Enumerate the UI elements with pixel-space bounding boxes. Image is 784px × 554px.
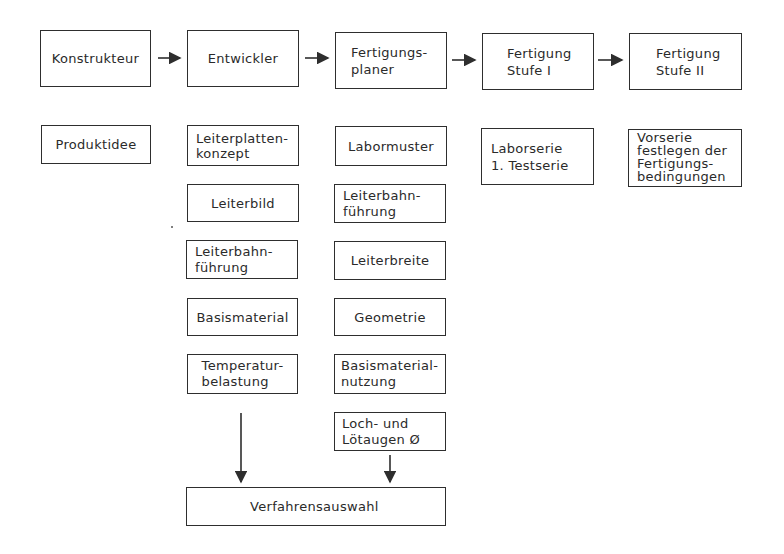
item-label: Basismaterial [196, 309, 288, 326]
item-label: Geometrie [354, 309, 425, 326]
node-fertigung-stufe-2: Fertigung Stufe II [629, 33, 742, 90]
node-fertigung-stufe-1: Fertigung Stufe I [482, 33, 594, 90]
item-loch-und-loetaugen: Loch- und Lötaugen Ø [334, 412, 446, 451]
item-label: Temperatur- belastung [202, 358, 284, 390]
item-label: Leiterplatten- konzept [196, 131, 288, 161]
node-entwickler: Entwickler [187, 30, 299, 87]
item-labormuster: Labormuster [335, 126, 447, 166]
node-label: Entwickler [208, 50, 278, 67]
item-geometrie: Geometrie [334, 298, 446, 336]
item-basismaterial: Basismaterial [187, 298, 298, 336]
item-label: Leiterbild [211, 195, 275, 212]
result-label: Verfahrensauswahl [250, 498, 379, 515]
item-label: Loch- und Lötaugen Ø [342, 416, 420, 448]
item-temperaturbelastung: Temperatur- belastung [187, 354, 298, 394]
item-label: Leiterbahn- führung [195, 244, 273, 276]
item-leiterbahnfuehrung-planer: Leiterbahn- führung [334, 184, 446, 223]
item-label: Labormuster [348, 138, 434, 155]
node-label: Fertigung Stufe I [507, 45, 572, 79]
item-vorserie: Vorserie festlegen der Fertigungs- bedin… [628, 129, 742, 187]
item-laborserie: Laborserie 1. Testserie [481, 128, 594, 185]
node-fertigungsplaner: Fertigungs- planer [335, 32, 447, 89]
item-basismaterialnutzung: Basismaterial- nutzung [334, 354, 446, 394]
node-label: Fertigungs- planer [351, 44, 428, 78]
node-label: Konstrukteur [52, 50, 139, 67]
item-label: Vorserie festlegen der Fertigungs- bedin… [637, 131, 727, 183]
item-label: Produktidee [56, 136, 137, 153]
item-leiterplattenkonzept: Leiterplatten- konzept [187, 125, 299, 166]
item-leiterbahnfuehrung-entwickler: Leiterbahn- führung [186, 240, 298, 279]
stray-dot [171, 226, 173, 228]
item-label: Basismaterial- nutzung [341, 358, 438, 390]
item-label: Leiterbahn- führung [343, 188, 421, 220]
item-leiterbild: Leiterbild [187, 184, 299, 222]
node-verfahrensauswahl: Verfahrensauswahl [186, 487, 446, 526]
item-label: Leiterbreite [351, 252, 430, 269]
node-label: Fertigung Stufe II [656, 45, 721, 79]
node-konstrukteur: Konstrukteur [40, 30, 151, 87]
item-label: Laborserie 1. Testserie [491, 140, 568, 174]
item-leiterbreite: Leiterbreite [334, 241, 446, 280]
item-produktidee: Produktidee [41, 125, 151, 164]
